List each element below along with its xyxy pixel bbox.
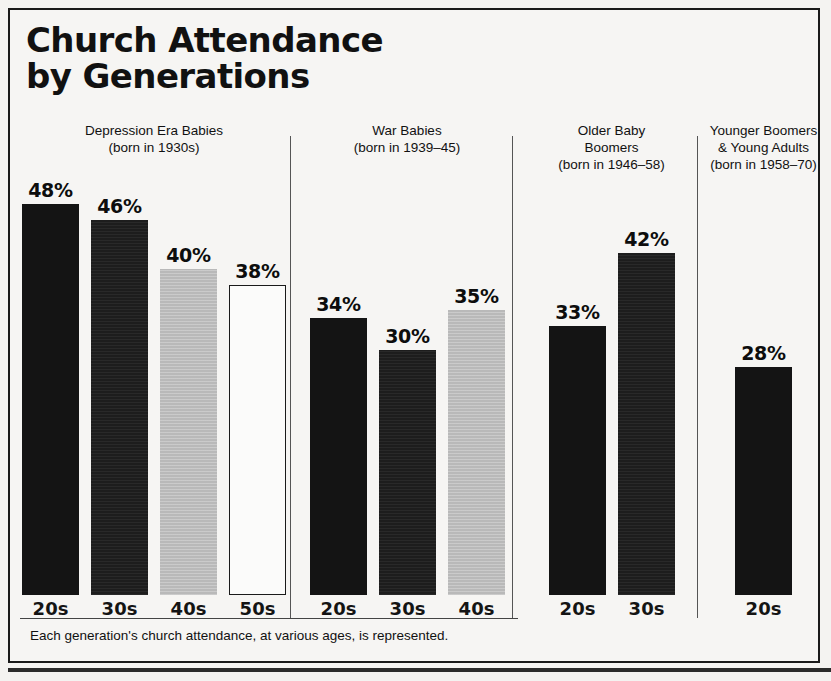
- bar-group-1: Depression Era Babies(born in 1930s)48%2…: [18, 122, 290, 622]
- group-heading-4: Younger Boomers& Young Adults(born in 19…: [709, 122, 818, 173]
- x-axis-tick-label: 50s: [229, 598, 286, 619]
- bar-slot: 38%: [229, 255, 286, 595]
- chart-caption: Each generation's church attendance, at …: [30, 628, 448, 643]
- bar-value-label: 28%: [735, 342, 792, 364]
- bar[interactable]: [618, 253, 675, 595]
- plot-area: Depression Era Babies(born in 1930s)48%2…: [10, 122, 818, 622]
- group-name-line1: Older Baby: [578, 123, 646, 138]
- bar-group-2: War Babies(born in 1939–45)34%20s30%30s3…: [302, 122, 512, 622]
- bar-slot: 40%: [160, 239, 217, 595]
- chart-title-line2: by Generations: [26, 58, 383, 94]
- bar-slot: 34%: [310, 288, 367, 595]
- bar-slot: 42%: [618, 223, 675, 595]
- bar-group-3: Older BabyBoomers(born in 1946–58)33%20s…: [524, 122, 699, 622]
- bar-value-label: 48%: [22, 179, 79, 201]
- bar-slot: 28%: [735, 337, 792, 595]
- bar-value-label: 46%: [91, 195, 148, 217]
- x-axis-tick-label: 20s: [22, 598, 79, 619]
- x-axis-tick-label: 20s: [310, 598, 367, 619]
- bottom-rule: [8, 668, 831, 672]
- x-axis-tick-label: 40s: [448, 598, 505, 619]
- bar-slot: 35%: [448, 280, 505, 595]
- bar[interactable]: [735, 367, 792, 595]
- bar[interactable]: [91, 220, 148, 595]
- chart-page: Church Attendance by Generations Depress…: [0, 0, 831, 681]
- bar-value-label: 33%: [549, 301, 606, 323]
- bar-slot: 30%: [379, 320, 436, 595]
- bar-value-label: 38%: [229, 260, 286, 282]
- bar-slot: 33%: [549, 296, 606, 595]
- x-axis-tick-label: 40s: [160, 598, 217, 619]
- group-heading-1: Depression Era Babies(born in 1930s): [18, 122, 290, 156]
- x-axis-tick-label: 30s: [618, 598, 675, 619]
- x-axis-tick-label: 20s: [735, 598, 792, 619]
- bar[interactable]: [448, 310, 505, 595]
- bar-value-label: 40%: [160, 244, 217, 266]
- bar[interactable]: [229, 285, 286, 595]
- chart-title: Church Attendance by Generations: [26, 22, 383, 94]
- group-name: Depression Era Babies: [85, 123, 223, 138]
- x-axis-tick-label: 20s: [549, 598, 606, 619]
- bar-value-label: 35%: [448, 285, 505, 307]
- bar-slot: 48%: [22, 174, 79, 595]
- bar-value-label: 34%: [310, 293, 367, 315]
- chart-title-line1: Church Attendance: [26, 20, 383, 60]
- group-name-line2: Boomers: [524, 139, 699, 156]
- group-divider-3: [697, 136, 698, 618]
- bar[interactable]: [549, 326, 606, 595]
- bar[interactable]: [160, 269, 217, 595]
- group-heading-2: War Babies(born in 1939–45): [302, 122, 512, 156]
- bar-slot: 46%: [91, 190, 148, 595]
- group-subtitle: (born in 1939–45): [302, 139, 512, 156]
- bar-value-label: 42%: [618, 228, 675, 250]
- x-axis-tick-label: 30s: [91, 598, 148, 619]
- caption-rule: [20, 618, 518, 619]
- bar[interactable]: [379, 350, 436, 595]
- group-name-line1: Younger Boomers: [710, 123, 818, 138]
- bar-group-4: Younger Boomers& Young Adults(born in 19…: [709, 122, 818, 622]
- group-divider-2: [512, 136, 513, 618]
- group-subtitle: (born in 1946–58): [524, 156, 699, 173]
- group-subtitle: (born in 1958–70): [709, 156, 818, 173]
- group-name-line2: & Young Adults: [709, 139, 818, 156]
- group-divider-1: [290, 136, 291, 618]
- x-axis-tick-label: 30s: [379, 598, 436, 619]
- bar[interactable]: [310, 318, 367, 595]
- group-name: War Babies: [372, 123, 441, 138]
- bar[interactable]: [22, 204, 79, 595]
- group-subtitle: (born in 1930s): [18, 139, 290, 156]
- bar-value-label: 30%: [379, 325, 436, 347]
- group-heading-3: Older BabyBoomers(born in 1946–58): [524, 122, 699, 173]
